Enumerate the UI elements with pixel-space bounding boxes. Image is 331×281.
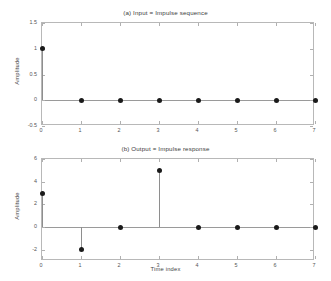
data-point-marker — [79, 247, 84, 252]
x-axis-tick-label: 6 — [274, 262, 277, 268]
x-axis-tick — [81, 256, 82, 259]
x-axis-tick — [159, 159, 160, 162]
x-axis-tick-label: 1 — [79, 262, 82, 268]
plot-title-b: (b) Output = Impulse response — [0, 145, 331, 152]
x-axis-tick-label: 2 — [118, 127, 121, 133]
data-point-marker — [196, 98, 201, 103]
data-point-marker — [118, 225, 123, 230]
x-axis-tick-label: 7 — [313, 127, 316, 133]
stem-line — [159, 170, 160, 227]
y-axis-tick-label: -0.5 — [11, 122, 37, 128]
x-axis-tick — [276, 159, 277, 162]
y-axis-tick — [310, 75, 313, 76]
y-axis-tick — [310, 204, 313, 205]
y-axis-tick — [310, 49, 313, 50]
x-axis-tick — [198, 159, 199, 162]
y-axis-tick-label: -2 — [11, 246, 37, 252]
x-axis-tick-label: 3 — [157, 127, 160, 133]
plot-area-b — [41, 158, 314, 260]
subplot-output-impulse-response: (b) Output = Impulse response Amplitude … — [0, 140, 331, 281]
x-axis-tick — [120, 256, 121, 259]
x-axis-tick — [276, 23, 277, 26]
y-axis-tick — [42, 159, 45, 160]
data-point-marker — [40, 46, 45, 51]
x-axis-tick-label: 1 — [79, 127, 82, 133]
stem-line — [42, 193, 43, 227]
y-axis-tick-label: 2 — [11, 200, 37, 206]
x-axis-tick — [237, 121, 238, 124]
x-axis-tick — [159, 121, 160, 124]
x-axis-tick — [120, 23, 121, 26]
data-point-marker — [157, 98, 162, 103]
plot-title-a: (a) Input = Impulse sequence — [0, 9, 331, 16]
x-axis-tick — [198, 256, 199, 259]
zero-baseline — [42, 227, 313, 228]
y-axis-tick-label: 0 — [11, 223, 37, 229]
data-point-marker — [313, 98, 318, 103]
y-axis-tick — [42, 23, 45, 24]
y-axis-tick — [310, 250, 313, 251]
y-axis-tick — [42, 182, 45, 183]
y-axis-tick — [310, 159, 313, 160]
data-point-marker — [118, 98, 123, 103]
plot-area-a — [41, 22, 314, 125]
y-axis-tick — [42, 227, 45, 228]
x-axis-tick — [276, 121, 277, 124]
x-axis-label-b: Time index — [0, 266, 331, 272]
x-axis-tick — [159, 23, 160, 26]
x-axis-tick — [315, 159, 316, 162]
x-axis-tick — [120, 121, 121, 124]
x-axis-tick — [315, 256, 316, 259]
x-axis-tick-label: 6 — [274, 127, 277, 133]
data-point-marker — [235, 225, 240, 230]
x-axis-tick-label: 0 — [40, 127, 43, 133]
subplot-input-impulse-sequence: (a) Input = Impulse sequence Amplitude 0… — [0, 0, 331, 140]
x-axis-tick — [198, 23, 199, 26]
data-point-marker — [40, 191, 45, 196]
x-axis-tick — [159, 256, 160, 259]
x-axis-tick-label: 0 — [40, 262, 43, 268]
x-axis-tick-label: 5 — [235, 262, 238, 268]
data-point-marker — [157, 168, 162, 173]
y-axis-tick — [42, 100, 45, 101]
x-axis-tick — [198, 121, 199, 124]
data-point-marker — [196, 225, 201, 230]
x-axis-tick — [237, 159, 238, 162]
x-axis-tick-label: 3 — [157, 262, 160, 268]
y-axis-tick — [310, 23, 313, 24]
x-axis-tick — [81, 159, 82, 162]
x-axis-tick — [315, 121, 316, 124]
y-axis-tick-label: 4 — [11, 178, 37, 184]
y-axis-tick — [42, 250, 45, 251]
x-axis-tick — [81, 121, 82, 124]
x-axis-tick — [81, 23, 82, 26]
data-point-marker — [274, 98, 279, 103]
figure-canvas: (a) Input = Impulse sequence Amplitude 0… — [0, 0, 331, 281]
x-axis-tick-label: 7 — [313, 262, 316, 268]
x-axis-tick-label: 2 — [118, 262, 121, 268]
x-axis-tick — [237, 256, 238, 259]
x-axis-tick — [237, 23, 238, 26]
x-axis-tick-label: 4 — [196, 262, 199, 268]
y-axis-tick-label: 0.5 — [11, 71, 37, 77]
y-axis-tick — [310, 182, 313, 183]
x-axis-tick — [276, 256, 277, 259]
x-axis-tick — [42, 256, 43, 259]
y-axis-tick-label: 1.5 — [11, 19, 37, 25]
data-point-marker — [235, 98, 240, 103]
y-axis-tick-label: 0 — [11, 96, 37, 102]
x-axis-tick-label: 5 — [235, 127, 238, 133]
x-axis-tick — [120, 159, 121, 162]
x-axis-tick — [42, 121, 43, 124]
y-axis-tick-label: 1 — [11, 45, 37, 51]
data-point-marker — [313, 225, 318, 230]
x-axis-tick-label: 4 — [196, 127, 199, 133]
x-axis-tick — [315, 23, 316, 26]
y-axis-tick-label: 6 — [11, 155, 37, 161]
data-point-marker — [274, 225, 279, 230]
data-point-marker — [79, 98, 84, 103]
stem-line — [42, 49, 43, 101]
